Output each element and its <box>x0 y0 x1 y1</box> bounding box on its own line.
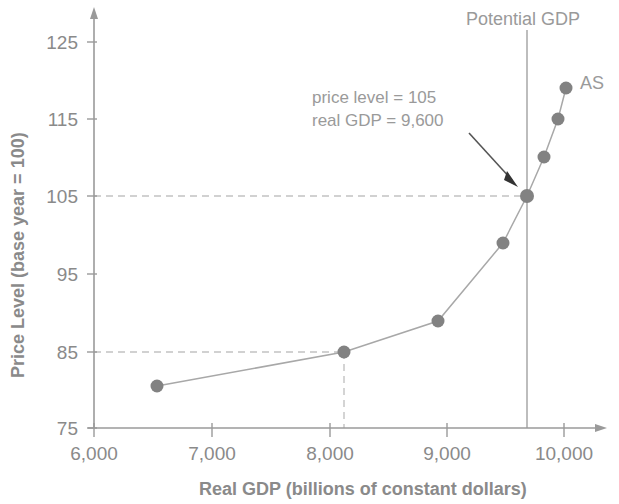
data-point <box>338 346 351 359</box>
x-tick-label-10000: 10,000 <box>535 443 593 464</box>
data-point <box>432 315 445 328</box>
y-tick-label-85: 85 <box>57 342 78 363</box>
as-curve-label: AS <box>580 73 604 93</box>
data-point <box>552 113 565 126</box>
y-tick-label-75: 75 <box>57 418 78 439</box>
data-point <box>538 151 551 164</box>
x-tick-label-7000: 7,000 <box>188 443 236 464</box>
y-tick-label-95: 95 <box>57 264 78 285</box>
x-tick-label-6000: 6,000 <box>70 443 118 464</box>
y-axis-title: Price Level (base year = 100) <box>8 132 28 378</box>
x-tick-label-9000: 9,000 <box>423 443 471 464</box>
x-tick-label-8000: 8,000 <box>306 443 354 464</box>
potential-gdp-label: Potential GDP <box>466 9 580 29</box>
y-tick-label-125: 125 <box>46 32 78 53</box>
data-point <box>497 237 510 250</box>
aggregate-supply-chart: 125 115 105 95 85 75 6,000 7,000 8,000 9… <box>0 0 619 504</box>
chart-page: 125 115 105 95 85 75 6,000 7,000 8,000 9… <box>0 0 619 504</box>
data-point <box>560 82 573 95</box>
y-tick-label-115: 115 <box>48 109 78 130</box>
data-point <box>151 380 164 393</box>
y-tick-label-105: 105 <box>46 186 78 207</box>
annotation-line-1: price level = 105 <box>312 88 436 107</box>
x-axis-title: Real GDP (billions of constant dollars) <box>199 479 527 499</box>
annotation-line-2: real GDP = 9,600 <box>312 111 444 130</box>
data-point-equilibrium <box>520 189 534 203</box>
